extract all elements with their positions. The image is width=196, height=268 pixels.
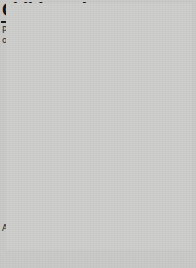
chart-inner-panel	[6, 3, 192, 250]
chart-card: Child smokers Percentage of regular smok…	[0, 0, 196, 268]
